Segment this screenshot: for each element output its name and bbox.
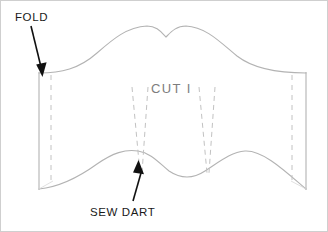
right-dart-line-outer [199, 87, 207, 173]
pattern-diagram-figure: FOLD CUT I SEW DART [0, 0, 328, 232]
top-edge-curve [39, 26, 306, 73]
sew-dart-label: SEW DART [90, 206, 155, 218]
fold-label: FOLD [15, 11, 48, 23]
pattern-drawing-canvas [1, 1, 328, 232]
left-dart-line-inner [142, 87, 148, 173]
cut-one-label: CUT I [151, 81, 192, 96]
right-dart-line-inner [209, 87, 215, 173]
left-dart-line-outer [132, 87, 140, 173]
bottom-edge-curve [39, 151, 306, 189]
sew-dart-arrow-icon [133, 160, 144, 201]
fold-arrow-icon [31, 26, 47, 77]
